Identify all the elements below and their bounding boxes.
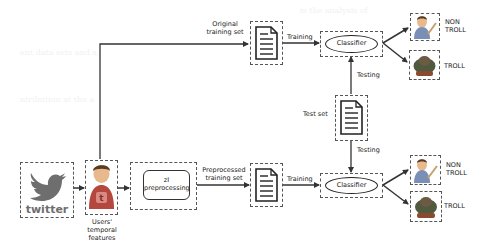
troll-output-top: [409, 50, 440, 80]
user-avatar-icon: t: [86, 161, 117, 214]
testing-label-top: Testing: [357, 71, 380, 79]
troll-avatar-icon: [410, 51, 439, 79]
troll-output-bottom: [410, 191, 442, 222]
testing-label-bottom: Testing: [357, 146, 380, 154]
classifier-ellipse: Classifier: [325, 177, 378, 194]
troll-label-top: TROLL: [444, 62, 465, 70]
users-label: Users' temporal features: [82, 218, 122, 242]
nontroll-label-top: NON TROLL: [445, 18, 466, 34]
document-icon: [251, 164, 282, 206]
nontroll-avatar-icon: [411, 14, 439, 40]
preprocessed-training-doc-node: [250, 163, 283, 207]
twitter-wordmark: twitter: [26, 203, 69, 216]
diagram-canvas: is the analysis of ent data sets and a n…: [0, 0, 484, 249]
classifier-bottom-node: Classifier: [320, 173, 383, 198]
training-label-bottom: Training: [287, 175, 313, 183]
nontroll-output-top: [410, 13, 440, 41]
nontroll-output-bottom: [410, 155, 441, 185]
training-label-top: Training: [287, 33, 313, 41]
preprocessing-step: zI preprocessing: [143, 170, 190, 200]
preprocessed-training-set-label: Preprocessed training set: [198, 166, 250, 182]
svg-text:t: t: [99, 193, 104, 203]
twitter-bird-icon: twitter: [21, 163, 73, 217]
twitter-node: twitter: [20, 162, 74, 218]
users-node: t: [85, 160, 118, 215]
document-icon: [251, 22, 282, 64]
test-set-label: Test set: [303, 110, 328, 118]
preprocessing-node: zI preprocessing: [130, 162, 197, 210]
test-set-doc-node: [335, 95, 368, 141]
classifier-top-node: Classifier: [320, 31, 383, 57]
troll-avatar-icon: [411, 192, 441, 221]
nontroll-label-bottom: NON TROLL: [446, 161, 467, 177]
nontroll-avatar-icon: [411, 156, 440, 184]
troll-label-bottom: TROLL: [444, 202, 465, 210]
original-training-set-label: Original training set: [200, 20, 250, 36]
original-training-doc-node: [250, 21, 283, 65]
document-icon: [336, 96, 367, 140]
classifier-ellipse: Classifier: [325, 35, 378, 53]
